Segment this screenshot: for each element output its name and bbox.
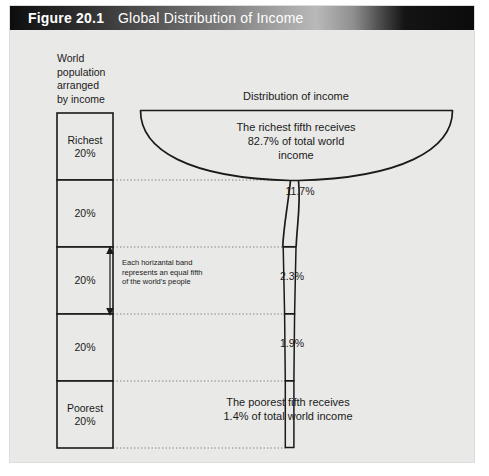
band-label-richest: Richest 20% bbox=[57, 134, 113, 159]
band-label-second: 20% bbox=[57, 207, 113, 220]
value-label-1-9: 1.9% bbox=[262, 337, 322, 349]
richest-fifth-note: The richest fifth receives 82.7% of tota… bbox=[216, 120, 376, 162]
value-label-2-3: 2.3% bbox=[262, 270, 322, 282]
band-label-poorest: Poorest 20% bbox=[57, 402, 113, 427]
band-label-third: 20% bbox=[57, 274, 113, 287]
poorest-fifth-note: The poorest fifth receives 1.4% of total… bbox=[198, 395, 378, 423]
figure-container: Figure 20.1 Global Distribution of Incom… bbox=[0, 0, 489, 476]
value-label-11-7: 11.7% bbox=[270, 185, 330, 197]
distribution-of-income-title: Distribution of income bbox=[216, 90, 376, 103]
equal-fifth-note: Each horizantal band represents an equal… bbox=[122, 258, 214, 287]
band-label-fourth: 20% bbox=[57, 341, 113, 354]
column-caption: World population arranged by income bbox=[57, 52, 127, 106]
